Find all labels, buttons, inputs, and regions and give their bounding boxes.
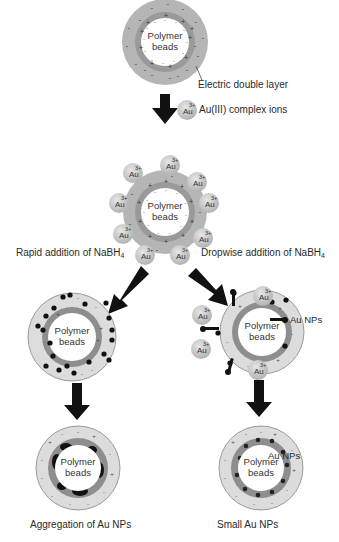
arrow-dropwise [188, 268, 228, 306]
bead-label-line2: beads [59, 336, 85, 347]
svg-text:-: - [165, 187, 167, 193]
bead-label-line1: Polymer [61, 456, 96, 467]
svg-text:-: - [41, 457, 43, 463]
svg-text:-: - [180, 223, 182, 229]
bead-label-line2: beads [152, 211, 178, 222]
bead-label-stage-4a: Polymer beads [53, 456, 103, 478]
bead-label-stage-2: Polymer beads [140, 200, 190, 222]
svg-text:-: - [41, 475, 43, 481]
aggregation-label: Aggregation of Au NPs [30, 519, 131, 531]
bead-label-line2: beads [152, 41, 178, 52]
svg-text:-: - [154, 189, 156, 195]
svg-text:+: + [99, 325, 103, 331]
svg-text:+: + [48, 439, 52, 445]
bead-label-line2: beads [65, 467, 91, 478]
svg-text:+: + [184, 54, 188, 61]
svg-text:-: - [176, 190, 178, 196]
bead-label-line2: beads [248, 467, 274, 478]
rapid-addition-text: Rapid addition of NaBH [16, 247, 121, 258]
svg-text:-: - [253, 501, 255, 507]
svg-text:-: - [162, 60, 164, 66]
bead-label-line1: Polymer [148, 30, 183, 41]
small-nps-label: Small Au NPs [217, 519, 278, 531]
svg-text:+: + [190, 218, 194, 225]
svg-text:-: - [157, 230, 159, 236]
svg-text:-: - [164, 17, 166, 23]
svg-text:-: - [286, 487, 288, 493]
subscript-4: 4 [121, 252, 125, 259]
svg-text:+: + [276, 357, 280, 363]
au-complex-ions-label: Au(III) complex ions [199, 104, 287, 116]
svg-text:+: + [148, 233, 152, 240]
arrow-down-right [246, 380, 272, 417]
svg-text:-: - [226, 339, 228, 345]
svg-text:-: - [175, 19, 177, 25]
svg-text:-: - [245, 431, 247, 437]
au-ion-legend-icon [177, 100, 197, 120]
svg-text:+: + [148, 182, 152, 189]
svg-text:+: + [231, 439, 235, 445]
svg-text:-: - [77, 295, 79, 301]
svg-text:-: - [271, 500, 273, 506]
svg-text:-: - [81, 371, 83, 377]
svg-text:+: + [273, 431, 277, 437]
svg-text:+: + [164, 238, 168, 245]
bead-label-stage-1: Polymer beads [140, 30, 190, 52]
svg-text:-: - [87, 501, 89, 507]
svg-text:+: + [110, 471, 114, 477]
rapid-addition-label: Rapid addition of NaBH4 [16, 247, 124, 262]
arrow-down-left [64, 383, 90, 420]
svg-text:+: + [238, 303, 242, 309]
svg-text:-: - [103, 489, 105, 495]
svg-text:+: + [181, 232, 185, 239]
svg-text:-: - [235, 493, 237, 499]
svg-text:+: + [56, 311, 60, 317]
bead-label-line1: Polymer [55, 325, 90, 336]
svg-text:-: - [77, 429, 79, 435]
svg-text:+: + [92, 433, 96, 439]
au-nps-label-stage-3b: Au NPs [290, 314, 322, 326]
svg-text:-: - [147, 222, 149, 228]
svg-text:+: + [168, 63, 172, 70]
electric-double-layer-label: Electric double layer [198, 79, 288, 91]
svg-text:-: - [151, 57, 153, 63]
svg-text:+: + [190, 25, 194, 32]
svg-text:+: + [181, 18, 185, 25]
svg-text:-: - [224, 475, 226, 481]
svg-text:+: + [180, 183, 184, 190]
svg-text:+: + [292, 467, 296, 473]
svg-text:-: - [224, 457, 226, 463]
bead-label-line2: beads [249, 331, 275, 342]
svg-text:-: - [44, 339, 46, 345]
svg-text:-: - [260, 429, 262, 435]
svg-text:-: - [291, 331, 293, 337]
bead-label-line1: Polymer [148, 200, 183, 211]
bead-label-line1: Polymer [245, 320, 280, 331]
svg-text:-: - [95, 304, 97, 310]
dropwise-addition-text: Dropwise addition of NaBH [201, 247, 321, 258]
arrow-rapid [108, 266, 149, 314]
au-nps-label-stage-4b: Au NPs [268, 450, 300, 462]
svg-text:-: - [173, 58, 175, 64]
svg-text:+: + [278, 305, 282, 311]
subscript-4: 4 [321, 252, 325, 259]
svg-text:-: - [69, 501, 71, 507]
bead-label-stage-3a: Polymer beads [47, 325, 97, 347]
svg-text:+: + [164, 178, 168, 185]
svg-text:-: - [61, 431, 63, 437]
arrow-down-1 [152, 94, 178, 124]
dropwise-addition-label: Dropwise addition of NaBH4 [201, 247, 325, 262]
svg-text:-: - [91, 367, 93, 373]
svg-text:-: - [51, 493, 53, 499]
svg-text:-: - [169, 230, 171, 236]
svg-text:-: - [109, 451, 111, 457]
svg-text:-: - [154, 19, 156, 25]
bead-label-stage-3b: Polymer beads [237, 320, 287, 342]
